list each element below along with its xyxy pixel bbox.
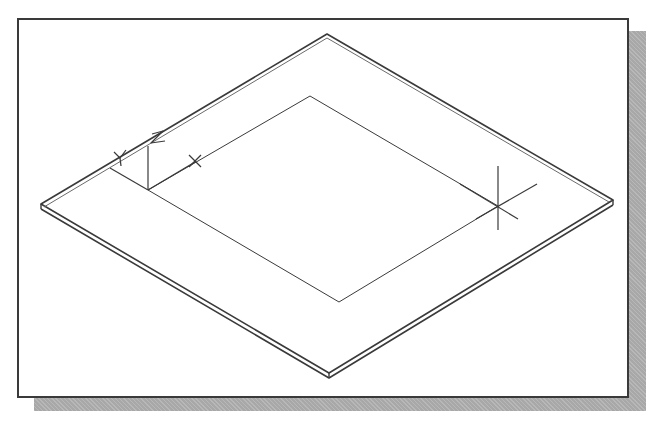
- inner-rectangle: [148, 96, 498, 302]
- isometric-drawing: [0, 0, 652, 430]
- crosshair-cursor-icon: [460, 166, 537, 230]
- ucs-x-axis: [148, 162, 195, 190]
- plate-top-face: [41, 34, 613, 373]
- plate-rim-inner: [44, 38, 609, 207]
- plate-bottom-edge: [41, 205, 613, 378]
- ucs-y-axis: [110, 168, 148, 190]
